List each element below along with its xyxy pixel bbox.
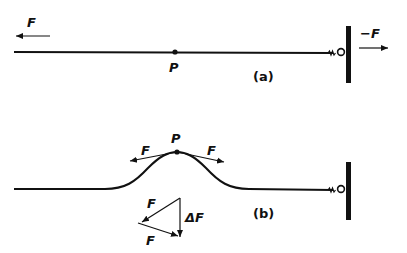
caption-b: (b) <box>253 206 274 221</box>
label-f-left-b: F <box>141 143 150 158</box>
label-triangle-delta-f: ΔF <box>184 210 204 225</box>
label-p-b: P <box>171 131 181 146</box>
ring-a <box>338 49 345 56</box>
label-f-right-b: F <box>207 143 216 158</box>
label-f-left-a: F <box>27 15 36 30</box>
force-arrow-left-b <box>130 152 177 161</box>
ring-b <box>338 186 345 193</box>
panel-a: F −F P (a) <box>14 15 388 84</box>
force-arrow-right-b <box>177 152 224 162</box>
string-b-pulse <box>14 152 333 190</box>
point-p-a <box>172 49 177 54</box>
label-f-right-a: −F <box>360 26 380 41</box>
triangle-f-bottom <box>138 223 178 236</box>
string-tension-diagram: F −F P (a) F F P F F ΔF (b) <box>0 0 407 253</box>
panel-b: F F P F F ΔF (b) <box>14 131 351 248</box>
label-triangle-f-bottom: F <box>146 233 155 248</box>
caption-a: (a) <box>253 69 274 84</box>
label-p-a: P <box>169 60 179 75</box>
wall-a <box>346 26 351 83</box>
wall-b <box>346 162 351 220</box>
label-triangle-f-top: F <box>147 196 156 211</box>
